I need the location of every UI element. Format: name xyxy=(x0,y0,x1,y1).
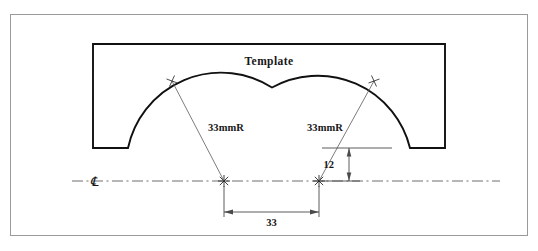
centerline-symbol: ℄ xyxy=(90,174,99,189)
radius-label-right: 33mmR xyxy=(307,122,343,133)
radius-label-left: 33mmR xyxy=(208,122,244,133)
page-background xyxy=(0,0,538,251)
dimension-label-33: 33 xyxy=(266,217,277,228)
template-title-label: Template xyxy=(245,55,294,68)
dimension-label-12: 12 xyxy=(324,159,335,170)
technical-drawing-svg: ℄ xyxy=(0,0,538,251)
drawing-canvas: ℄ xyxy=(0,0,538,251)
